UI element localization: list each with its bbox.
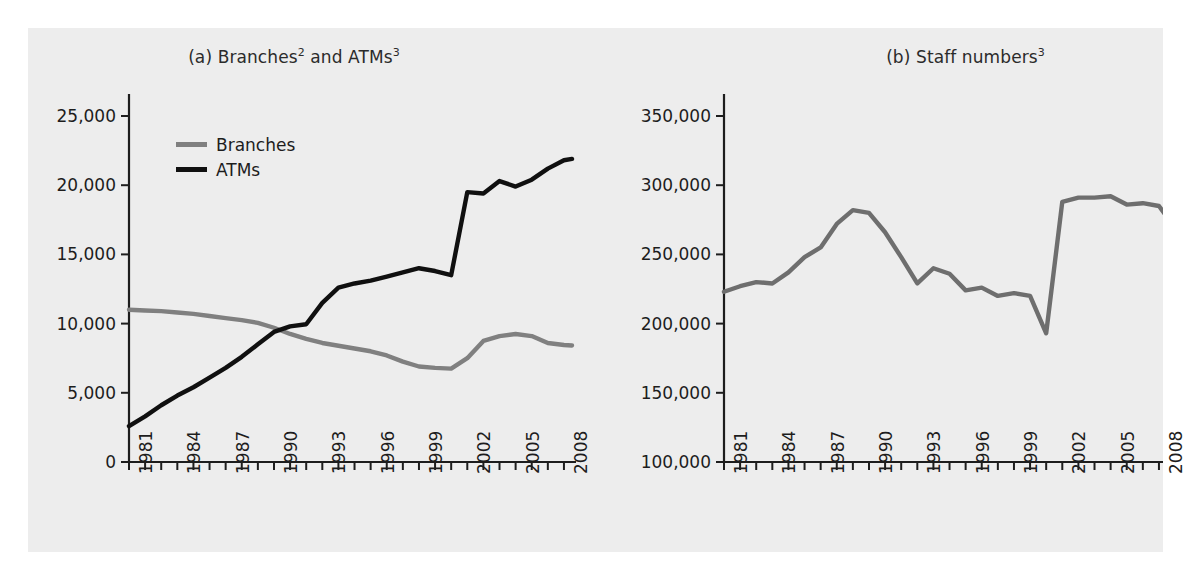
legend-swatch-branches-icon [176, 142, 207, 147]
y-axis-tick-label: 0 [105, 452, 116, 472]
x-axis-tick-label: 1981 [136, 431, 156, 474]
legend-swatch-atms-icon [176, 167, 207, 172]
y-axis-tick-label: 300,000 [641, 175, 711, 195]
x-axis-tick-label: 1987 [828, 431, 848, 474]
x-axis-tick-label: 1993 [924, 431, 944, 474]
x-axis-tick-label: 1996 [378, 431, 398, 474]
x-axis-tick-label: 1990 [281, 431, 301, 474]
x-axis-tick-label: 1984 [779, 431, 799, 474]
y-axis-tick-label: 20,000 [57, 175, 116, 195]
x-axis-tick-label: 1996 [973, 431, 993, 474]
y-axis-tick-label: 150,000 [641, 383, 711, 403]
x-axis-tick-label: 1999 [1021, 431, 1041, 474]
legend-item-atms: ATMs [176, 157, 295, 182]
y-axis-tick-label: 350,000 [641, 106, 711, 126]
x-axis-tick-label: 1981 [731, 431, 751, 474]
x-axis-tick-label: 1984 [184, 431, 204, 474]
y-axis-tick-label: 15,000 [57, 244, 116, 264]
y-axis-tick-label: 10,000 [57, 314, 116, 334]
x-axis-tick-label: 1987 [233, 431, 253, 474]
x-axis-tick-label: 2005 [1118, 431, 1138, 474]
legend-label-atms: ATMs [216, 160, 260, 180]
x-axis-tick-label: 2008 [571, 431, 591, 474]
x-axis-tick-label: 2008 [1166, 431, 1186, 474]
x-axis-tick-label: 2002 [1069, 431, 1089, 474]
legend: Branches ATMs [176, 132, 295, 182]
x-axis-tick-label: 1999 [426, 431, 446, 474]
y-axis-tick-label: 250,000 [641, 244, 711, 264]
legend-item-branches: Branches [176, 132, 295, 157]
chart-panel-staff-numbers: (b) Staff numbers3 100,000150,000200,000… [628, 28, 1163, 552]
x-axis-tick-label: 2005 [523, 431, 543, 474]
chart-panel-branches-atms: (a) Branches2 and ATMs3 Branches ATMs 05… [28, 28, 628, 552]
figure-container: (a) Branches2 and ATMs3 Branches ATMs 05… [28, 28, 1163, 552]
y-axis-tick-label: 100,000 [641, 452, 711, 472]
x-axis-tick-label: 1993 [329, 431, 349, 474]
y-axis-tick-label: 25,000 [57, 106, 116, 126]
x-axis-tick-label: 2002 [474, 431, 494, 474]
legend-label-branches: Branches [216, 135, 295, 155]
x-axis-tick-label: 1990 [876, 431, 896, 474]
y-axis-tick-label: 5,000 [67, 383, 116, 403]
y-axis-tick-label: 200,000 [641, 314, 711, 334]
